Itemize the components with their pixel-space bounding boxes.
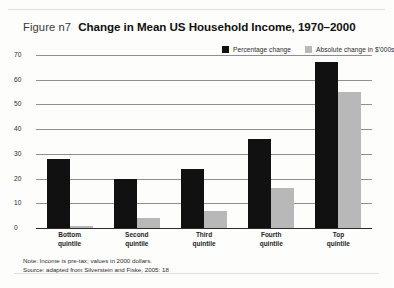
y-axis-tick-50: 50 (14, 100, 32, 107)
figure-title: Change in Mean US Household Income, 1970… (78, 20, 355, 33)
chart-legend: Percentage change Absolute change in $'0… (222, 46, 394, 53)
figure-number: Figure n7 (23, 21, 71, 33)
bar (338, 92, 361, 228)
bar (315, 62, 338, 228)
y-axis-tick-10: 10 (14, 199, 32, 206)
legend-item-percentage-change: Percentage change (222, 46, 291, 53)
legend-swatch-icon-percentage-change (222, 46, 229, 53)
bar (70, 226, 93, 228)
gridline-0 (36, 228, 372, 229)
bar-group (36, 55, 103, 228)
y-axis-tick-70: 70 (14, 51, 32, 58)
figure-title-row: Figure n7 Change in Mean US Household In… (23, 20, 356, 33)
page-edge-top (8, 9, 385, 10)
legend-label-percentage-change: Percentage change (233, 46, 291, 53)
bar (204, 211, 227, 228)
y-axis-tick-30: 30 (14, 150, 32, 157)
x-axis-label: Bottomquintile (36, 231, 103, 248)
bar-group (238, 55, 305, 228)
bar-group (103, 55, 170, 228)
bar (47, 159, 70, 228)
legend-item-absolute-change: Absolute change in $'000s (305, 46, 394, 53)
x-axis-labels: BottomquintileSecondquintileThirdquintil… (36, 231, 372, 248)
plot-area: 010203040506070 (36, 55, 372, 228)
bar (137, 218, 160, 228)
figure-notes: Note: Income is pre-tax; values in 2000 … (23, 256, 169, 274)
bar (271, 188, 294, 228)
y-axis-tick-40: 40 (14, 125, 32, 132)
legend-swatch-icon-absolute-change (305, 46, 312, 53)
source-line: Source: adapted from Silverstein and Fis… (23, 265, 169, 274)
y-axis-tick-20: 20 (14, 175, 32, 182)
bar (114, 179, 137, 228)
x-axis-label: Fourthquintile (238, 231, 305, 248)
x-axis-label: Thirdquintile (170, 231, 237, 248)
y-axis-tick-0: 0 (14, 224, 32, 231)
x-axis-label: Secondquintile (103, 231, 170, 248)
bar-group (170, 55, 237, 228)
bars-layer (36, 55, 372, 228)
bar (248, 139, 271, 228)
y-axis-tick-60: 60 (14, 76, 32, 83)
x-axis-label: Topquintile (305, 231, 372, 248)
bar-group (305, 55, 372, 228)
bar (181, 169, 204, 228)
note-line: Note: Income is pre-tax; values in 2000 … (23, 256, 169, 265)
legend-label-absolute-change: Absolute change in $'000s (316, 46, 394, 53)
